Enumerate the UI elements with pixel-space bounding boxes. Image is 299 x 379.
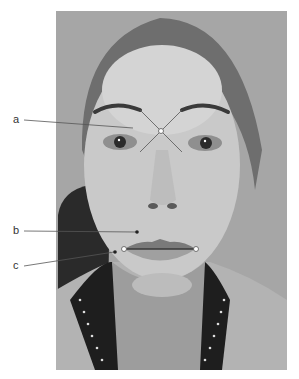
annotated-face-figure: a b c: [0, 0, 299, 379]
label-c: c: [13, 260, 19, 271]
label-a: a: [13, 114, 19, 125]
commissure-right-marker: [194, 247, 199, 252]
label-b: b: [13, 225, 19, 236]
glabella-marker: [159, 129, 164, 134]
annotation-overlay: [0, 0, 299, 379]
pointer-b: [24, 231, 136, 232]
commissure-left-marker: [122, 247, 127, 252]
pointer-b-dot: [135, 230, 139, 234]
pointer-c-dot: [113, 250, 117, 254]
pointer-a: [24, 120, 133, 128]
pointer-c: [24, 252, 114, 266]
